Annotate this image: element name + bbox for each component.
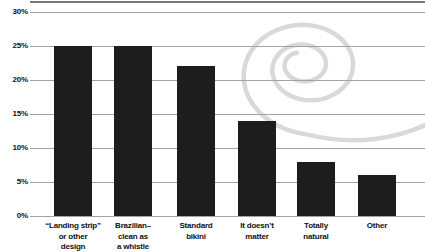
- category-label-4: It doesn’tmatter: [224, 221, 290, 242]
- category-label-line: “Landing strip”: [40, 221, 106, 232]
- category-label-3: Standardbikini: [163, 221, 229, 242]
- category-label-line: bikini: [163, 232, 229, 243]
- gridline-0: [30, 216, 425, 217]
- category-label-line: Totally: [283, 221, 349, 232]
- y-tick-label: 15%: [0, 109, 28, 119]
- category-label-line: or other: [40, 232, 106, 243]
- category-label-line: clean as: [100, 232, 166, 243]
- bar-3: [177, 66, 215, 216]
- category-label-line: design: [40, 242, 106, 252]
- bar-chart: 30%25%20%15%10%5%0% “Landing strip”or ot…: [0, 0, 425, 252]
- y-tick-label: 30%: [0, 7, 28, 17]
- category-label-line: matter: [224, 232, 290, 243]
- y-tick-label: 10%: [0, 143, 28, 153]
- category-label-line: a whistle: [100, 242, 166, 252]
- category-label-line: Standard: [163, 221, 229, 232]
- category-label-1: “Landing strip”or otherdesign: [40, 221, 106, 252]
- y-tick-label: 0%: [0, 211, 28, 221]
- category-label-line: Brazilian–: [100, 221, 166, 232]
- bar-6: [358, 175, 396, 216]
- gridline-30: [30, 12, 425, 13]
- category-label-2: Brazilian–clean asa whistle: [100, 221, 166, 252]
- category-label-line: natural: [283, 232, 349, 243]
- category-label-line: It doesn’t: [224, 221, 290, 232]
- y-tick-label: 5%: [0, 177, 28, 187]
- bar-2: [114, 46, 152, 216]
- category-label-line: Other: [344, 221, 410, 232]
- y-tick-label: 20%: [0, 75, 28, 85]
- category-label-5: Totallynatural: [283, 221, 349, 242]
- y-tick-label: 25%: [0, 41, 28, 51]
- bar-4: [238, 121, 276, 216]
- bar-1: [54, 46, 92, 216]
- bar-5: [297, 162, 335, 216]
- top-rule: [30, 1, 425, 3]
- category-label-6: Other: [344, 221, 410, 232]
